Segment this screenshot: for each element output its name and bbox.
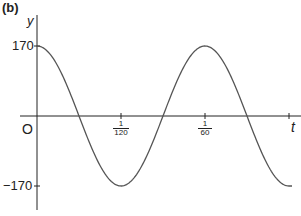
panel-label: (b) [2, 0, 19, 15]
y-tick-label-minus-170: −170 [3, 178, 32, 193]
x-tick-label-1-120: 1 120 [113, 120, 129, 137]
chart-canvas [0, 0, 301, 216]
y-axis-label: y [27, 13, 34, 28]
origin-label: O [22, 121, 33, 137]
fraction-numerator: 1 [113, 120, 129, 128]
fraction-denominator: 60 [198, 128, 212, 137]
y-tick-label-170: 170 [12, 38, 34, 53]
fraction-numerator: 1 [198, 120, 212, 128]
x-axis-label: t [291, 119, 295, 135]
x-tick-label-1-60: 1 60 [198, 120, 212, 137]
fraction-denominator: 120 [113, 128, 129, 137]
